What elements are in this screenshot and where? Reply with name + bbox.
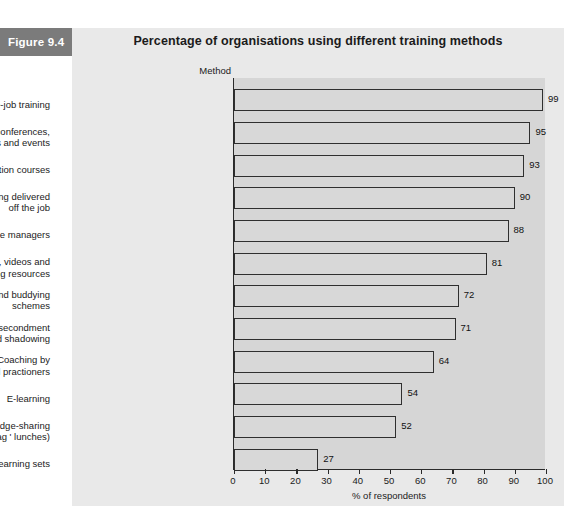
bar-value-label: 88 [514,224,525,235]
bar-value-label: 54 [407,387,418,398]
bar [234,318,456,340]
bar-value-label: 95 [535,126,546,137]
x-axis-tick [484,469,485,474]
x-axis-tick-label: 0 [218,475,248,486]
bar-value-label: 72 [464,289,475,300]
bar-row: 88 [234,220,546,242]
x-axis-tick-label: 30 [312,475,342,486]
x-axis-tick-label: 10 [249,475,279,486]
bar [234,220,509,242]
figure-number-label: Figure 9.4 [8,36,64,48]
x-axis-tick [515,469,516,474]
chart-title: Percentage of organisations using differ… [72,34,564,48]
bar-value-label: 52 [401,420,412,431]
category-label: Mentoring and buddying schemes [0,289,50,312]
chart-panel: Percentage of organisations using differ… [72,28,564,506]
category-label: Coaching by external practioners [0,354,50,377]
bar-row: 99 [234,89,546,111]
figure-container: Figure 9.4 Percentage of organisations u… [0,0,564,529]
bar-value-label: 27 [323,453,334,464]
bar [234,89,543,111]
x-axis-tick-label: 100 [530,475,560,486]
bar [234,449,318,471]
category-label: Formal education courses [0,164,50,176]
category-label: Internal knowledge-sharing events (brown… [0,420,50,443]
figure-number-tab: Figure 9.4 [0,28,72,56]
bar-value-label: 90 [520,191,531,202]
bar-row: 81 [234,253,546,275]
bar-value-label: 71 [461,322,472,333]
bar-value-label: 99 [548,93,559,104]
bar [234,416,396,438]
x-axis-tick-label: 80 [468,475,498,486]
x-axis-tick [421,469,422,474]
bar [234,285,459,307]
x-axis-tick [234,469,235,474]
x-axis-tick [265,469,266,474]
bar-row: 27 [234,449,546,471]
x-axis-tick-label: 70 [436,475,466,486]
category-label: Audio tapes, videos and learning resourc… [0,256,50,279]
x-axis-tick [328,469,329,474]
bar-row: 64 [234,351,546,373]
category-label: Job rotation, secondment and shadowing [0,322,50,345]
bar-row: 52 [234,416,546,438]
bar [234,187,515,209]
x-axis-tick [359,469,360,474]
bar-row: 54 [234,383,546,405]
x-axis-tick [390,469,391,474]
category-label: Action learning sets [0,458,50,470]
category-label: On-the-job training [0,99,50,111]
bar-value-label: 93 [529,159,540,170]
plot-area: 99On-the-job training95External conferen… [233,78,545,470]
y-axis-title: Method [167,65,231,76]
bar-row: 95 [234,122,546,144]
bar-row: 93 [234,155,546,177]
bar [234,253,487,275]
x-axis-tick [452,469,453,474]
bar-row: 71 [234,318,546,340]
bar-row: 90 [234,187,546,209]
x-axis-tick-label: 60 [405,475,435,486]
bar [234,351,434,373]
category-label: E-learning [0,393,50,405]
x-axis-title: % of respondents [233,490,545,501]
x-axis-tick-label: 90 [499,475,529,486]
bar-value-label: 64 [439,355,450,366]
bar [234,383,402,405]
category-label: Coaching by line managers [0,229,50,241]
bar-row: 72 [234,285,546,307]
x-axis-tick-label: 40 [343,475,373,486]
category-label: External conferences, workshops and even… [0,126,50,149]
x-axis-tick [546,469,547,474]
category-label: Instructor-led training delivered off th… [0,191,50,214]
bar [234,122,530,144]
x-axis-tick-label: 50 [374,475,404,486]
x-axis-tick-label: 20 [280,475,310,486]
x-axis-tick [296,469,297,474]
bar-value-label: 81 [492,257,503,268]
bar [234,155,524,177]
